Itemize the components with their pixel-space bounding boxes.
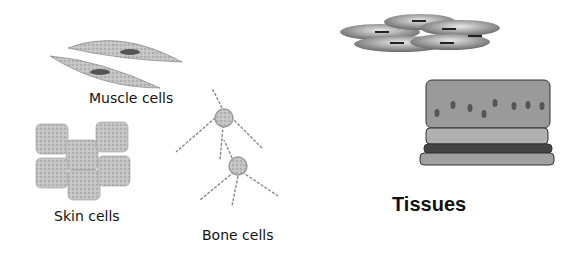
muscle-cells-illustration: [50, 41, 182, 88]
muscle-cells-label: Muscle cells: [89, 90, 173, 106]
epithelial-tissue-illustration: [420, 80, 554, 165]
bone-cells-label: Bone cells: [202, 227, 274, 243]
bone-cells-illustration: [176, 88, 278, 206]
skin-cells-illustration: [36, 122, 130, 200]
skin-cells-label: Skin cells: [54, 208, 120, 224]
tissue-sheet-illustration: [340, 14, 500, 52]
tissues-title: Tissues: [392, 193, 466, 216]
